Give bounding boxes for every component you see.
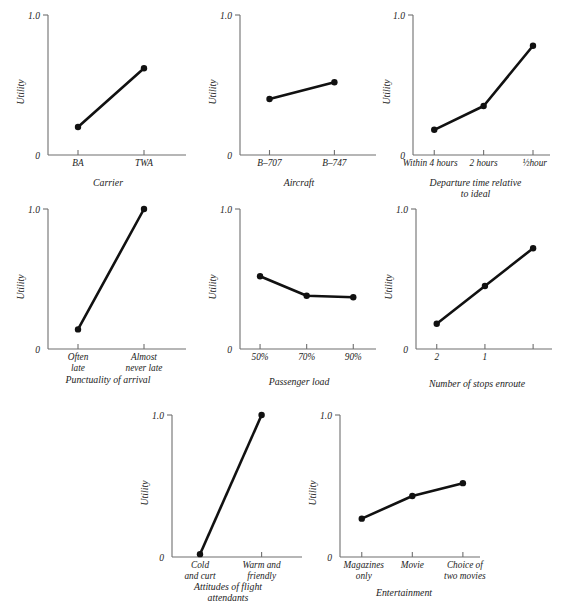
- utility-line: [270, 82, 335, 99]
- y-axis-title: Utility: [139, 480, 150, 506]
- y-tick-label-zero: 0: [159, 552, 164, 563]
- x-category-label-0: Magazines: [343, 560, 385, 570]
- y-axis-title: Utility: [383, 274, 394, 300]
- data-point: [141, 206, 147, 212]
- y-axis-title: Utility: [15, 274, 26, 300]
- chart-panel-entertainment: 1.00UtilityMagazinesonlyMovieChoice oftw…: [296, 397, 491, 608]
- x-category-label-0: Often: [68, 352, 89, 362]
- y-tick-label-top: 1.0: [152, 410, 164, 421]
- x-category-label-1: TWA: [135, 158, 153, 168]
- x-axis-title: attendants: [208, 592, 249, 603]
- utility-line: [200, 415, 262, 554]
- data-point: [350, 294, 356, 300]
- y-tick-label-zero: 0: [403, 344, 408, 355]
- x-axis-title: Departure time relative: [429, 177, 522, 188]
- chart-panel-carrier: 1.00UtilityBATWACarrier: [0, 0, 190, 200]
- data-point: [409, 493, 415, 499]
- data-point: [257, 273, 263, 279]
- x-category-label-1: Movie: [400, 560, 424, 570]
- x-category-label-0: B–707: [257, 158, 282, 168]
- x-category-label-2: Choice of: [447, 560, 484, 570]
- data-point: [530, 43, 536, 49]
- chart-panel-stops-enroute: 1.00Utility21Number of stops enroute: [372, 197, 565, 397]
- utility-line: [434, 46, 533, 130]
- data-point: [75, 124, 81, 130]
- y-tick-label-top: 1.0: [220, 204, 232, 215]
- x-category-label-2: ½hour: [522, 158, 547, 168]
- x-axis-title: Attitudes of flight: [193, 581, 262, 592]
- x-category-label-0: BA: [72, 158, 84, 168]
- chart-panel-attitudes: 1.00UtilityColdand curtWarm andfriendlyA…: [122, 397, 302, 608]
- x-category-label-1: B–747: [322, 158, 347, 168]
- x-category-label-1: Almost: [130, 352, 157, 362]
- data-point: [266, 96, 272, 102]
- utility-functions-figure: 1.00UtilityBATWACarrier1.00UtilityB–707B…: [0, 0, 565, 608]
- chart-panel-passenger-load: 1.00Utility50%70%90%Passenger load: [188, 197, 378, 397]
- y-tick-label-top: 1.0: [320, 410, 332, 421]
- data-point: [434, 321, 440, 327]
- x-axis-title: Passenger load: [268, 376, 330, 387]
- y-axis-title: Utility: [207, 274, 218, 300]
- utility-line: [362, 483, 463, 519]
- y-axis-title: Utility: [15, 79, 26, 105]
- y-tick-label-zero: 0: [35, 344, 40, 355]
- y-axis-title: Utility: [307, 480, 318, 506]
- data-point: [141, 65, 147, 71]
- x-category-label-1: 70%: [298, 352, 315, 362]
- data-point: [197, 551, 203, 557]
- y-tick-label-top: 1.0: [28, 10, 40, 21]
- x-category-label-0: Within 4 hours: [403, 158, 458, 168]
- x-category-label-0: Cold: [191, 560, 209, 570]
- y-tick-label-zero: 0: [327, 552, 332, 563]
- x-category-label-1: friendly: [247, 571, 277, 581]
- data-point: [303, 293, 309, 299]
- x-axis-title: Punctuality of arrival: [65, 374, 151, 385]
- y-axis-title: Utility: [207, 79, 218, 105]
- x-category-label-0: 2: [434, 352, 439, 362]
- x-category-label-1: never late: [126, 363, 163, 373]
- data-point: [75, 326, 81, 332]
- data-point: [359, 515, 365, 521]
- x-axis-title: Aircraft: [283, 177, 315, 188]
- x-category-label-0: only: [356, 571, 373, 581]
- data-point: [530, 245, 536, 251]
- x-axis-title: Number of stops enroute: [428, 378, 526, 389]
- x-category-label-2: two movies: [444, 571, 486, 581]
- utility-line: [78, 68, 144, 127]
- data-point: [482, 283, 488, 289]
- y-tick-label-top: 1.0: [220, 10, 232, 21]
- data-point: [431, 127, 437, 133]
- y-axis-title: Utility: [381, 79, 392, 105]
- y-tick-label-zero: 0: [35, 150, 40, 161]
- data-point: [331, 79, 337, 85]
- x-category-label-2: 90%: [345, 352, 362, 362]
- chart-panel-punctuality: 1.00UtilityOftenlateAlmostnever latePunc…: [0, 197, 190, 397]
- y-tick-label-top: 1.0: [393, 10, 405, 21]
- chart-panel-aircraft: 1.00UtilityB–707B–747Aircraft: [188, 0, 378, 200]
- data-point: [480, 103, 486, 109]
- x-axis-title: Entertainment: [375, 587, 432, 598]
- y-tick-label-zero: 0: [227, 150, 232, 161]
- x-category-label-0: 50%: [252, 352, 269, 362]
- x-category-label-1: 2 hours: [470, 158, 499, 168]
- x-category-label-0: and curt: [184, 571, 216, 581]
- y-tick-label-top: 1.0: [28, 204, 40, 215]
- data-point: [460, 480, 466, 486]
- data-point: [258, 412, 264, 418]
- y-tick-label-top: 1.0: [396, 204, 408, 215]
- chart-panel-departure-time: 1.00UtilityWithin 4 hours2 hours½hourDep…: [372, 0, 565, 205]
- x-category-label-0: late: [71, 363, 85, 373]
- x-category-label-1: Warm and: [243, 560, 281, 570]
- x-category-label-1: 1: [483, 352, 488, 362]
- utility-line: [78, 209, 144, 329]
- x-axis-title: Carrier: [93, 177, 123, 188]
- y-tick-label-zero: 0: [227, 344, 232, 355]
